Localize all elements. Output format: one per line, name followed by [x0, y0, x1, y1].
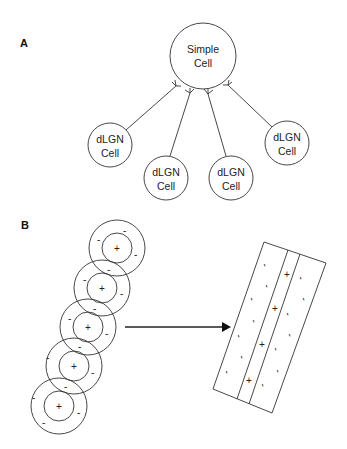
off-surround-sign: -: [32, 392, 35, 403]
off-surround-sign: -: [77, 407, 80, 418]
synapse-icon: [185, 88, 194, 93]
arrow-icon: [125, 322, 231, 332]
simple-cell-label-line2: Cell: [194, 57, 212, 69]
on-sign: +: [272, 303, 278, 314]
dlgn-cell-label: Cell: [101, 147, 119, 159]
off-sign: -: [249, 317, 260, 324]
panel-b-label: B: [21, 219, 29, 231]
off-sign: -: [247, 295, 258, 302]
simple-cell-label-line1: Simple: [187, 43, 219, 55]
diagram-canvas: A Simple Cell dLGN Cell dLGN Cell dLGN C…: [0, 0, 347, 449]
dlgn-cell-4: dLGN Cell: [265, 121, 309, 165]
dlgn-cell-label: Cell: [157, 180, 175, 192]
off-sign: -: [260, 261, 271, 268]
off-surround-sign: -: [123, 225, 126, 236]
simple-cell: Simple Cell: [170, 23, 236, 89]
receptive-field-2: + - - -: [74, 260, 130, 316]
axon-2: [170, 93, 190, 156]
on-center-sign: +: [114, 243, 120, 254]
axon-4: [228, 85, 272, 127]
on-sign: +: [246, 375, 252, 386]
off-surround-sign: -: [107, 264, 110, 275]
off-surround-sign: -: [46, 352, 49, 363]
off-sign: -: [258, 381, 269, 388]
off-sign: -: [283, 310, 294, 317]
off-surround-sign: -: [120, 288, 123, 299]
synapse-icon: [172, 80, 181, 86]
on-sign: +: [259, 339, 265, 350]
dlgn-cell-label: Cell: [278, 145, 296, 157]
on-center-sign: +: [85, 322, 91, 333]
off-sign: -: [273, 367, 284, 374]
receptive-field-5: + - - - -: [31, 378, 87, 434]
on-stripe-border: [237, 250, 288, 399]
synapse-icon: [204, 89, 213, 94]
dlgn-cell-1: dLGN Cell: [88, 123, 132, 167]
off-surround-sign: -: [83, 274, 86, 285]
off-surround-sign: -: [64, 381, 67, 392]
off-sign: -: [234, 332, 245, 339]
off-surround-sign: -: [93, 303, 96, 314]
panel-a-label: A: [20, 37, 28, 49]
off-sign: -: [271, 345, 282, 352]
off-sign: -: [285, 331, 296, 338]
dlgn-cell-label: dLGN: [273, 131, 300, 143]
on-sign: +: [284, 269, 290, 280]
off-sign: -: [262, 282, 273, 289]
off-surround-sign: -: [97, 234, 100, 245]
on-stripe-border: [249, 254, 300, 404]
off-sign: -: [222, 368, 233, 375]
on-center-sign: +: [71, 361, 77, 372]
receptive-field-1: + - - -: [89, 220, 145, 276]
off-surround-sign: -: [134, 249, 137, 260]
dlgn-cell-label: dLGN: [217, 166, 244, 178]
off-sign: -: [296, 274, 307, 281]
off-surround-sign: -: [68, 313, 71, 324]
on-center-sign: +: [99, 283, 105, 294]
on-center-sign: +: [56, 401, 62, 412]
axon-3: [208, 94, 226, 156]
receptive-field-3: + - - -: [60, 299, 116, 355]
off-surround-sign: -: [42, 417, 45, 428]
dlgn-cell-label: Cell: [222, 180, 240, 192]
off-surround-sign: -: [105, 328, 108, 339]
axon-1: [126, 86, 176, 130]
dlgn-cell-label: dLGN: [96, 133, 123, 145]
off-sign: -: [237, 353, 248, 360]
dlgn-cell-3: dLGN Cell: [209, 156, 253, 200]
off-surround-sign: -: [91, 367, 94, 378]
off-sign: -: [299, 295, 310, 302]
connections: [126, 85, 272, 156]
receptive-field-4: + - - -: [46, 338, 102, 394]
off-surround-sign: -: [78, 341, 81, 352]
dlgn-cell-label: dLGN: [152, 166, 179, 178]
dlgn-cell-2: dLGN Cell: [144, 156, 188, 200]
